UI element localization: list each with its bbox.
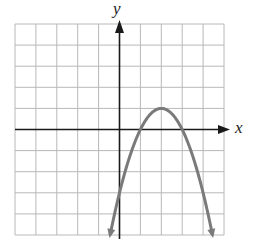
curve-arrow-icon xyxy=(207,228,215,238)
coordinate-plane xyxy=(0,0,254,240)
axes xyxy=(15,20,230,239)
curve-arrow-icon xyxy=(107,228,115,238)
y-axis-label: y xyxy=(113,0,121,19)
y-axis-arrow-icon xyxy=(115,20,124,33)
x-axis-label: x xyxy=(235,118,243,138)
